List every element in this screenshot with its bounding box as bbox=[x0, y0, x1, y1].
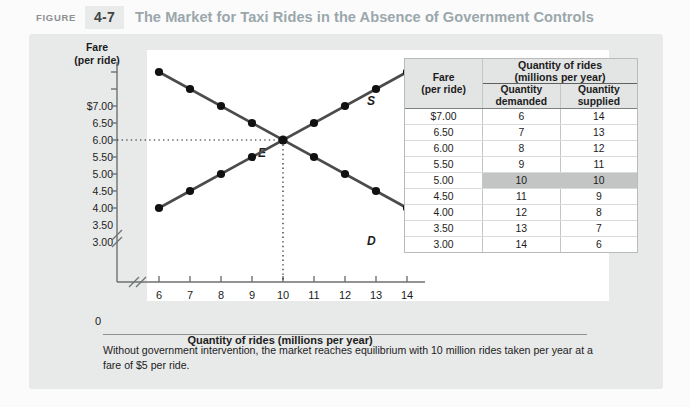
table-row: 4.50119 bbox=[405, 189, 637, 205]
column-header-qs-line1: Quantity bbox=[561, 84, 637, 96]
demand-point-11-4.50 bbox=[310, 153, 318, 161]
figure-number-badge: 4-7 bbox=[85, 6, 124, 29]
table-body: $7.006146.507136.008125.509115.0010104.5… bbox=[405, 109, 637, 253]
supply-demand-table: Fare (per ride) Quantity of rides (milli… bbox=[404, 58, 638, 253]
cell-quantity-demanded: 10 bbox=[483, 173, 561, 189]
column-header-qd-line2: demanded bbox=[483, 96, 560, 108]
cell-quantity-demanded: 11 bbox=[483, 189, 561, 205]
cell-fare: 5.00 bbox=[405, 173, 483, 189]
cell-quantity-supplied: 8 bbox=[560, 205, 637, 221]
demand-point-12-4.00 bbox=[341, 170, 349, 178]
figure-header: FIGURE 4-7 The Market for Taxi Rides in … bbox=[0, 0, 690, 34]
column-header-fare-line2: (per ride) bbox=[405, 84, 482, 96]
cell-fare: 3.50 bbox=[405, 221, 483, 237]
table-header: Fare (per ride) Quantity of rides (milli… bbox=[405, 59, 637, 109]
column-header-quantity-supplied: Quantity supplied bbox=[560, 84, 637, 109]
cell-quantity-supplied: 13 bbox=[560, 125, 637, 141]
demand-point-7-6.50 bbox=[186, 85, 194, 93]
cell-fare: 4.00 bbox=[405, 205, 483, 221]
cell-quantity-demanded: 13 bbox=[483, 221, 561, 237]
cell-quantity-supplied: 9 bbox=[560, 189, 637, 205]
demand-point-8-6.00 bbox=[217, 102, 225, 110]
cell-quantity-supplied: 6 bbox=[560, 237, 637, 253]
column-group-header-quantity: Quantity of rides (millions per year) bbox=[483, 59, 637, 84]
demand-point-13-3.50 bbox=[372, 187, 380, 195]
supply-point-9-4.50 bbox=[248, 153, 256, 161]
table-row: 3.00146 bbox=[405, 237, 637, 253]
table-row: 5.50911 bbox=[405, 157, 637, 173]
table-row: 6.00812 bbox=[405, 141, 637, 157]
cell-quantity-demanded: 6 bbox=[483, 109, 561, 125]
cell-fare: 6.50 bbox=[405, 125, 483, 141]
table-row: 5.001010 bbox=[405, 173, 637, 189]
cell-fare: 6.00 bbox=[405, 141, 483, 157]
cell-quantity-supplied: 11 bbox=[560, 157, 637, 173]
supply-point-7-3.50 bbox=[186, 187, 194, 195]
cell-quantity-supplied: 10 bbox=[560, 173, 637, 189]
column-header-fare-line1: Fare bbox=[405, 72, 482, 84]
supply-point-11-5.50 bbox=[310, 119, 318, 127]
cell-quantity-demanded: 8 bbox=[483, 141, 561, 157]
caption-divider bbox=[103, 334, 587, 335]
origin-label: 0 bbox=[87, 315, 109, 327]
equilibrium-point-dot bbox=[278, 135, 287, 144]
cell-quantity-supplied: 14 bbox=[560, 109, 637, 125]
cell-quantity-demanded: 12 bbox=[483, 205, 561, 221]
figure-title: The Market for Taxi Rides in the Absence… bbox=[135, 9, 594, 25]
figure-container: FIGURE 4-7 The Market for Taxi Rides in … bbox=[0, 0, 690, 407]
cell-quantity-demanded: 14 bbox=[483, 237, 561, 253]
figure-word-label: FIGURE bbox=[36, 12, 76, 23]
table-row: 6.50713 bbox=[405, 125, 637, 141]
supply-point-13-6.50 bbox=[372, 85, 380, 93]
column-header-qs-line2: supplied bbox=[561, 96, 637, 108]
table-row: 4.00128 bbox=[405, 205, 637, 221]
cell-quantity-supplied: 7 bbox=[560, 221, 637, 237]
figure-caption: Without government intervention, the mar… bbox=[103, 343, 595, 372]
cell-quantity-demanded: 7 bbox=[483, 125, 561, 141]
table-row: $7.00614 bbox=[405, 109, 637, 125]
column-header-fare: Fare (per ride) bbox=[405, 59, 483, 109]
table-row: 3.50137 bbox=[405, 221, 637, 237]
column-header-quantity-demanded: Quantity demanded bbox=[483, 84, 561, 109]
supply-point-8-4.00 bbox=[217, 170, 225, 178]
y-tick-marks bbox=[111, 72, 117, 208]
demand-point-9-5.50 bbox=[248, 119, 256, 127]
figure-panel: Fare (per ride) $7.00 6.50 6.00 5.50 5.0… bbox=[29, 34, 663, 389]
cell-quantity-supplied: 12 bbox=[560, 141, 637, 157]
cell-fare: $7.00 bbox=[405, 109, 483, 125]
supply-point-6-3.00 bbox=[155, 204, 163, 212]
cell-fare: 5.50 bbox=[405, 157, 483, 173]
cell-fare: 3.00 bbox=[405, 237, 483, 253]
demand-point-6-7.00 bbox=[155, 68, 163, 76]
plot-graphics bbox=[29, 34, 449, 294]
group-header-line1: Quantity of rides bbox=[483, 59, 637, 71]
supply-point-12-6.00 bbox=[341, 102, 349, 110]
cell-quantity-demanded: 9 bbox=[483, 157, 561, 173]
cell-fare: 4.50 bbox=[405, 189, 483, 205]
group-header-line2: (millions per year) bbox=[483, 71, 637, 83]
column-header-qd-line1: Quantity bbox=[483, 84, 560, 96]
